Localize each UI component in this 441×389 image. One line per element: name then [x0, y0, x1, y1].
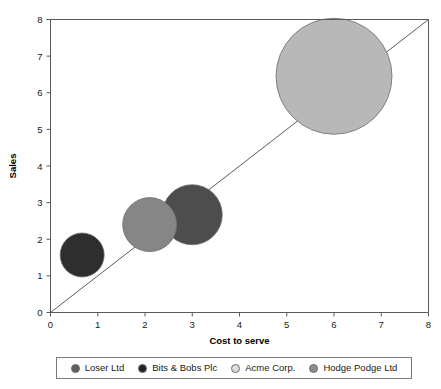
legend-item-loser-ltd[interactable]: Loser Ltd	[64, 363, 132, 373]
y-tick-label-3: 3	[37, 197, 42, 208]
x-tick-label-2: 2	[142, 319, 147, 330]
x-tick-label-5: 5	[284, 319, 289, 330]
legend-label: Hodge Podge Ltd	[323, 363, 397, 373]
bubble-acme-corp[interactable]	[276, 18, 392, 134]
legend-item-bits-bobs-plc[interactable]: Bits & Bobs Plc	[131, 363, 224, 373]
legend-swatch-icon	[231, 364, 240, 373]
y-tick-label-6: 6	[37, 87, 42, 98]
x-tick-label-8: 8	[426, 319, 431, 330]
bubble-loser-ltd[interactable]	[60, 233, 104, 277]
legend-label: Acme Corp.	[245, 363, 295, 373]
y-tick-label-1: 1	[37, 270, 42, 281]
chart-canvas: 012345678012345678Cost to serveSales	[0, 0, 441, 389]
chart-legend: Loser LtdBits & Bobs PlcAcme Corp.Hodge …	[56, 357, 412, 379]
y-tick-label-5: 5	[37, 124, 42, 135]
legend-swatch-icon	[138, 364, 147, 373]
legend-item-hodge-podge-ltd[interactable]: Hodge Podge Ltd	[302, 363, 404, 373]
x-tick-label-4: 4	[237, 319, 242, 330]
y-tick-label-2: 2	[37, 234, 42, 245]
bubble-hodge-podge-ltd[interactable]	[123, 198, 177, 252]
x-tick-label-3: 3	[190, 319, 195, 330]
y-tick-label-7: 7	[37, 51, 42, 62]
legend-label: Bits & Bobs Plc	[152, 363, 217, 373]
bubble-chart: 012345678012345678Cost to serveSales	[0, 0, 441, 389]
legend-item-acme-corp[interactable]: Acme Corp.	[224, 363, 302, 373]
x-axis-title: Cost to serve	[209, 335, 269, 346]
legend-swatch-icon	[71, 364, 80, 373]
legend-label: Loser Ltd	[85, 363, 125, 373]
x-tick-label-1: 1	[95, 319, 100, 330]
legend-swatch-icon	[309, 364, 318, 373]
x-tick-label-0: 0	[48, 319, 53, 330]
y-tick-label-8: 8	[37, 14, 42, 25]
x-tick-label-6: 6	[331, 319, 336, 330]
y-tick-label-4: 4	[37, 161, 42, 172]
y-tick-label-0: 0	[37, 307, 42, 318]
x-tick-label-7: 7	[379, 319, 384, 330]
y-axis-title: Sales	[7, 154, 18, 179]
